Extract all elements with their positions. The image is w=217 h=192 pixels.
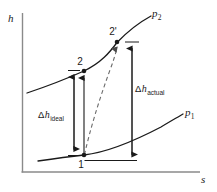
state-2-label: 2 — [77, 56, 83, 67]
actual-process-arrow — [85, 50, 117, 155]
entropy-axis-label: s — [201, 173, 205, 185]
state-2-dot — [82, 69, 87, 74]
state-2-prime-label: 2' — [109, 26, 117, 37]
delta-h-actual-subscript: actual — [147, 89, 165, 96]
process-paths-group — [84, 50, 117, 156]
isobar-p1-label-sub: 1 — [191, 112, 195, 121]
isobar-p2-label-sub: 2 — [158, 13, 162, 22]
enthalpy-axis-label: h — [8, 12, 14, 24]
delta-h-ideal-symbol: h — [45, 109, 50, 120]
isobar-p2-label: p2 — [151, 7, 162, 22]
state-1-label: 1 — [78, 159, 84, 170]
axis-labels-group: h s — [8, 12, 205, 185]
delta-h-ideal-measure: Δhideal — [38, 71, 80, 156]
state-2-prime-dot — [115, 40, 120, 45]
delta-h-actual-measure: Δhactual — [85, 42, 166, 161]
isobar-p1-label: p1 — [184, 106, 195, 121]
delta-h-ideal-subscript: ideal — [50, 115, 64, 122]
diagram-canvas: Δhideal Δhactual 1 2 2' p2 — [0, 0, 217, 192]
delta-h-actual-label: Δhactual — [135, 83, 165, 96]
hs-diagram-figure: Δhideal Δhactual 1 2 2' p2 — [0, 0, 217, 192]
state-1-dot — [82, 153, 87, 158]
curve-labels-group: p2 p1 — [151, 7, 195, 121]
delta-h-ideal-label: Δhideal — [38, 109, 64, 122]
delta-h-actual-symbol: h — [142, 83, 147, 94]
